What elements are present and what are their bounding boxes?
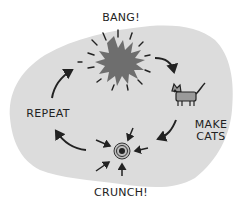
label-repeat: REPEAT [18,108,78,120]
label-crunch: CRUNCH! [85,187,157,199]
label-make-cats: MAKE CATS [188,119,234,143]
cycle-diagram: BANG! MAKE CATS CRUNCH! REPEAT [0,0,244,214]
label-bang: BANG! [92,12,150,24]
